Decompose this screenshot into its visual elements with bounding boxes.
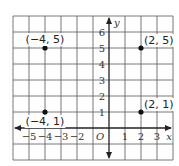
x-tick-label: 2	[138, 131, 144, 142]
x-tick-label: −3	[54, 131, 69, 142]
x-axis-label: x	[166, 131, 172, 142]
point-label: (2, 1)	[144, 98, 174, 111]
y-tick-label: 5	[99, 43, 105, 54]
y-tick-label: 6	[99, 27, 105, 38]
x-tick-label: −4	[38, 131, 53, 142]
y-tick-label: 2	[99, 91, 105, 102]
y-tick-label: 4	[99, 59, 105, 70]
data-point	[42, 109, 47, 114]
data-point	[138, 45, 143, 50]
x-tick-label: 3	[154, 131, 160, 142]
point-label: (−4, 5)	[26, 33, 65, 46]
y-tick-label: 1	[99, 107, 105, 118]
x-axis-left-arrow-icon	[14, 125, 21, 131]
y-axis-down-arrow-icon	[106, 152, 112, 159]
data-point	[42, 45, 47, 50]
point-label: (2, 5)	[144, 34, 174, 47]
x-tick-label: −5	[22, 131, 37, 142]
x-tick-label: 1	[122, 131, 128, 142]
data-point	[138, 109, 143, 114]
y-tick-label: 3	[99, 75, 105, 86]
coordinate-plane: −5−4−3−2123123456Oxy (−4, 5)(2, 5)(−4, 1…	[0, 0, 179, 166]
x-tick-label: −2	[70, 131, 85, 142]
y-axis-up-arrow-icon	[106, 17, 112, 24]
y-axis-label: y	[113, 17, 120, 28]
point-label: (−4, 1)	[26, 115, 65, 128]
origin-label: O	[96, 131, 104, 142]
